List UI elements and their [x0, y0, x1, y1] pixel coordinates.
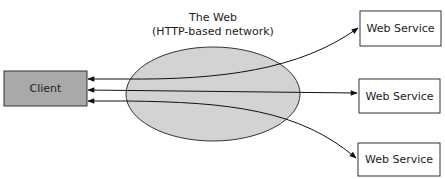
web-service-label-2: Web Service: [359, 79, 440, 113]
web-network-subtitle: (HTTP-based network): [142, 25, 284, 39]
web-service-label-3: Web Service: [358, 143, 440, 176]
web-network-label: The Web (HTTP-based network): [142, 11, 284, 39]
web-network-title: The Web: [142, 11, 284, 25]
web-network-ellipse: [126, 47, 300, 141]
client-label: Client: [4, 71, 87, 106]
web-service-label-1: Web Service: [360, 11, 441, 46]
